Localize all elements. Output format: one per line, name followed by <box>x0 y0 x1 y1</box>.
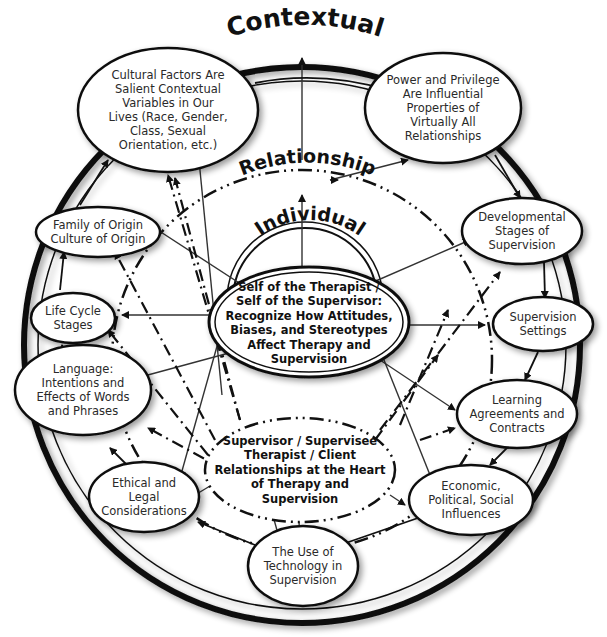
core-relationship-shape <box>205 418 395 522</box>
core-self-shape <box>209 267 409 377</box>
diagram-canvas: Contextual Relationship Individual <box>0 0 607 637</box>
contextual-label: Contextual <box>223 2 387 43</box>
relationship-label: Relationship <box>236 145 379 180</box>
individual-label: Individual <box>250 202 369 240</box>
